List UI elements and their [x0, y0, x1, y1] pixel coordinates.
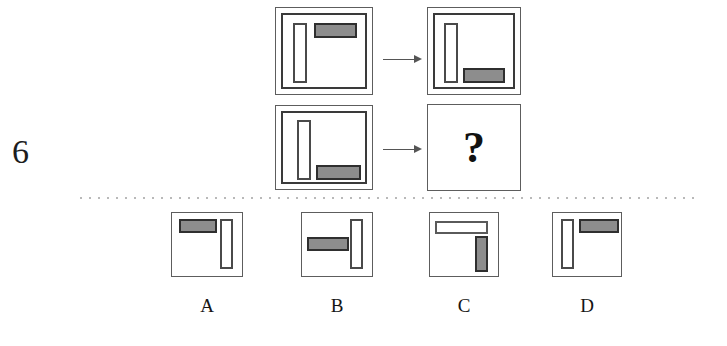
vertical-bar-white	[350, 219, 363, 269]
dotted-divider	[80, 197, 695, 199]
item-number: 6	[12, 133, 29, 171]
vertical-bar-white	[293, 23, 307, 83]
option-a[interactable]	[171, 212, 243, 277]
shape-field	[172, 213, 242, 276]
option-label-a: A	[171, 295, 243, 317]
vertical-bar-white	[561, 219, 574, 269]
shape-field	[302, 213, 372, 276]
matrix-cell-row1-left	[275, 7, 373, 95]
inner-frame	[281, 13, 367, 89]
horizontal-bar-gray	[579, 219, 619, 233]
matrix-cell-row2-left	[275, 105, 373, 190]
horizontal-bar-gray	[316, 165, 361, 180]
shape-field	[430, 213, 498, 276]
inner-frame	[433, 13, 515, 89]
right-arrow-icon-row1	[383, 54, 422, 66]
shape-field	[435, 15, 513, 87]
option-d[interactable]	[552, 212, 622, 277]
horizontal-bar-gray	[307, 237, 349, 251]
horizontal-bar-white	[435, 221, 488, 234]
option-label-c: C	[429, 295, 499, 317]
vertical-bar-white	[444, 23, 458, 83]
vertical-bar-white	[297, 120, 311, 180]
option-label-b: B	[301, 295, 373, 317]
question-mark: ?	[428, 125, 520, 171]
shape-field	[283, 113, 365, 182]
right-arrow-icon-row2	[383, 144, 422, 156]
inner-frame	[281, 111, 367, 184]
puzzle-canvas: 6	[0, 0, 727, 346]
vertical-bar-white	[220, 219, 233, 269]
shape-field	[553, 213, 621, 276]
horizontal-bar-gray	[463, 68, 505, 83]
matrix-cell-answer-slot[interactable]: ?	[427, 104, 521, 191]
option-label-d: D	[552, 295, 622, 317]
horizontal-bar-gray	[179, 219, 217, 233]
matrix-cell-row1-right	[427, 7, 521, 95]
option-b[interactable]	[301, 212, 373, 277]
option-c[interactable]	[429, 212, 499, 277]
shape-field	[283, 15, 365, 87]
vertical-bar-gray	[475, 236, 488, 272]
horizontal-bar-gray	[314, 23, 357, 38]
